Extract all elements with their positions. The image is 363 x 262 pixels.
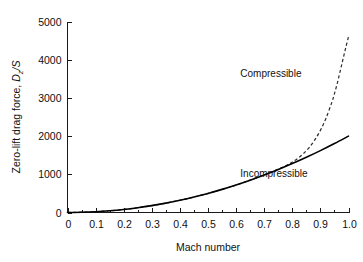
x-axis-title: Mach number	[176, 241, 241, 253]
chart-canvas: 010002000300040005000 00.10.20.30.40.50.…	[0, 0, 363, 262]
x-tick-label: 0.9	[313, 218, 328, 230]
x-tick-label: 0.4	[173, 218, 188, 230]
y-tick-label: 4000	[38, 54, 62, 66]
x-tick-label: 0	[66, 218, 72, 230]
x-tick-label: 0.5	[201, 218, 216, 230]
x-tick-label: 0.3	[145, 218, 160, 230]
y-tick-label: 3000	[38, 92, 62, 104]
y-tick-label: 2000	[38, 130, 62, 142]
y-tick-group	[68, 23, 72, 214]
annotation-incompressible: Incompressible	[240, 168, 308, 179]
annotation-compressible: Compressible	[240, 68, 302, 79]
chart-figure: 010002000300040005000 00.10.20.30.40.50.…	[0, 0, 363, 262]
y-tick-label: 1000	[38, 168, 62, 180]
x-tick-label: 0.6	[229, 218, 244, 230]
series-line-compressible	[68, 37, 349, 213]
x-tick-label: 0.8	[285, 218, 300, 230]
y-tick-label-group: 010002000300040005000	[38, 16, 62, 219]
y-tick-label: 5000	[38, 16, 62, 28]
x-tick-label: 1.0	[342, 218, 357, 230]
x-tick-label-group: 00.10.20.30.40.50.60.70.80.91.0	[66, 218, 357, 230]
y-tick-label: 0	[56, 207, 62, 219]
y-axis-title: Zero-lift drag force, Dz/S	[10, 61, 25, 174]
x-tick-label: 0.1	[89, 218, 104, 230]
x-tick-label: 0.2	[117, 218, 132, 230]
x-tick-label: 0.7	[257, 218, 272, 230]
